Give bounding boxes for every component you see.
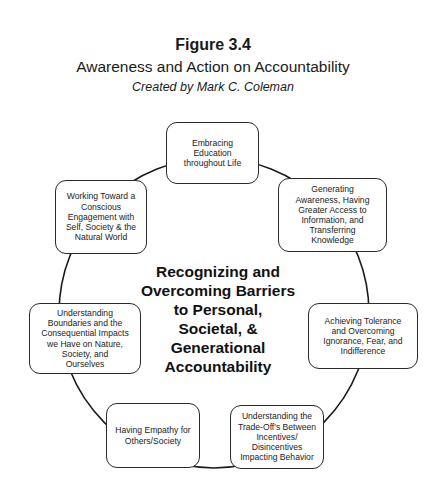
node-generating-awareness: Generating Awareness, Having Greater Acc… (278, 178, 387, 252)
node-working-toward-engagement: Working Toward a Conscious Engagement wi… (55, 180, 147, 254)
node-embracing-education: Embracing Education throughout Life (166, 122, 259, 184)
node-achieving-tolerance: Achieving Tolerance and Overcoming Ignor… (308, 303, 418, 369)
node-understanding-tradeoffs: Understanding the Trade-Off's Between In… (230, 405, 324, 469)
node-having-empathy: Having Empathy for Others/Society (106, 403, 200, 468)
node-understanding-boundaries: Understanding Boundaries and the Consequ… (29, 303, 141, 374)
center-label: Recognizing and Overcoming Barriers to P… (118, 262, 318, 376)
